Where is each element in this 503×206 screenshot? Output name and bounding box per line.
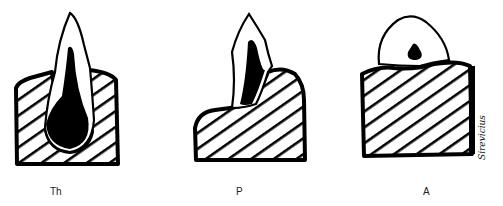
panel-th-drawing	[16, 13, 118, 164]
panel-a-drawing	[362, 16, 472, 156]
label-th: Th	[50, 186, 62, 197]
artist-signature: Sirevicius	[477, 115, 487, 160]
a-bone-block	[362, 62, 472, 156]
diagram-canvas	[0, 0, 503, 206]
label-p: P	[236, 186, 243, 197]
panel-p-drawing	[195, 14, 305, 160]
label-a: A	[423, 186, 430, 197]
